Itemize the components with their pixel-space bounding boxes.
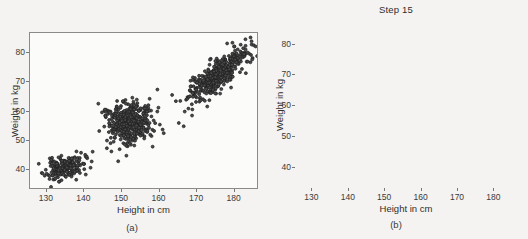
- panel-a: 1301401501601701804050607080 Height in c…: [0, 0, 264, 239]
- y-axis-title-b: Weight in kg: [274, 79, 285, 131]
- y-tick-mark: [26, 140, 29, 141]
- y-axis-title-a: Weight in kg: [9, 84, 20, 136]
- y-tick-mark: [26, 169, 29, 170]
- x-tick-mark: [234, 189, 235, 192]
- x-tick-mark: [121, 189, 122, 192]
- y-tick-mark: [292, 44, 295, 45]
- panel-b-caption: (b): [264, 219, 528, 230]
- y-tick-mark: [292, 74, 295, 75]
- x-tick-mark: [159, 189, 160, 192]
- y-tick-mark: [26, 81, 29, 82]
- x-tick-mark: [311, 188, 312, 191]
- x-tick-mark: [384, 188, 385, 191]
- y-tick-mark: [26, 111, 29, 112]
- x-tick-mark: [493, 188, 494, 191]
- x-tick-label: 140: [76, 193, 90, 203]
- x-tick-label: 140: [341, 192, 355, 202]
- x-tick-mark: [83, 189, 84, 192]
- x-tick-label: 170: [189, 193, 203, 203]
- x-tick-label: 180: [227, 193, 241, 203]
- panel-b-title: Step 15: [264, 4, 528, 15]
- y-tick-mark: [292, 167, 295, 168]
- x-tick-label: 130: [304, 192, 318, 202]
- y-tick-mark: [26, 52, 29, 53]
- x-tick-mark: [457, 188, 458, 191]
- y-tick-label: 50: [273, 131, 291, 141]
- x-tick-label: 130: [39, 193, 53, 203]
- y-tick-label: 70: [273, 69, 291, 79]
- plot-area-a: [29, 32, 258, 189]
- y-tick-label: 40: [273, 162, 291, 172]
- x-tick-mark: [348, 188, 349, 191]
- x-tick-mark: [196, 189, 197, 192]
- panel-b: Step 15 1301401501601701804050607080 Hei…: [264, 0, 528, 239]
- x-tick-label: 180: [486, 192, 500, 202]
- y-tick-mark: [292, 105, 295, 106]
- y-tick-label: 80: [273, 39, 291, 49]
- x-tick-mark: [46, 189, 47, 192]
- x-tick-label: 170: [450, 192, 464, 202]
- y-tick-label: 40: [7, 164, 25, 174]
- x-tick-mark: [421, 188, 422, 191]
- x-tick-label: 160: [151, 193, 165, 203]
- figure-container: 1301401501601701804050607080 Height in c…: [0, 0, 528, 239]
- y-tick-label: 80: [7, 47, 25, 57]
- panel-a-caption: (a): [0, 222, 264, 233]
- x-tick-label: 150: [377, 192, 391, 202]
- y-tick-mark: [292, 136, 295, 137]
- x-tick-label: 160: [414, 192, 428, 202]
- x-axis-title-b: Height in cm: [380, 203, 433, 214]
- scatter-points-a: [30, 33, 257, 188]
- x-axis-title-a: Height in cm: [117, 204, 170, 215]
- x-tick-label: 150: [114, 193, 128, 203]
